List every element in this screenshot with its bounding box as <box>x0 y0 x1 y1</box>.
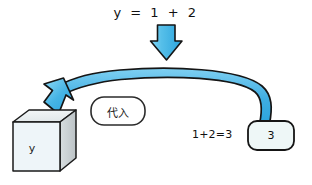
diagram-canvas: y = 1 + 2 <box>0 0 312 185</box>
cube-icon <box>13 110 76 171</box>
diagram-graphics-layer <box>0 0 312 185</box>
curved-left-arrow-icon <box>44 68 271 124</box>
result-value-text: 3 <box>249 129 293 142</box>
sum-expression-text: 1+2=3 <box>192 128 232 141</box>
cube-label: y <box>14 142 50 155</box>
substitute-label: 代入 <box>92 104 144 120</box>
down-arrow-icon <box>151 25 183 60</box>
